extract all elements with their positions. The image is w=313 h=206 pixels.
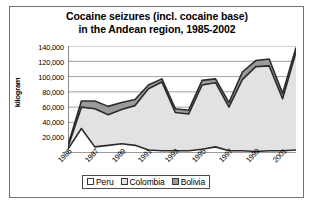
legend-item-colombia[interactable]: Colombia [121, 177, 165, 187]
legend-label-peru: Peru [96, 177, 114, 187]
legend-label-bolivia: Bolivia [181, 177, 205, 187]
x-tick-label: 1987 [83, 147, 101, 165]
legend-item-bolivia[interactable]: Bolivia [172, 177, 205, 187]
chart-figure: Cocaine seizures (incl. cocaine base) in… [0, 0, 313, 206]
legend-item-peru[interactable]: Peru [87, 177, 114, 187]
x-tick-label: 1985 [56, 147, 74, 165]
legend-label-colombia: Colombia [130, 177, 165, 187]
x-tick-label: 1995 [190, 147, 208, 165]
x-tick-label: 1993 [163, 147, 181, 165]
x-tick-label: 1991 [136, 147, 154, 165]
bolivia-swatch-icon [172, 178, 179, 185]
x-tick-label: 1989 [110, 147, 128, 165]
colombia-swatch-icon [121, 178, 128, 185]
chart-legend: Peru Colombia Bolivia [82, 175, 210, 189]
peru-swatch-icon [87, 178, 94, 185]
x-tick-label: 1999 [244, 147, 262, 165]
x-tick-label: 1997 [217, 147, 235, 165]
x-tick-label: 2001 [271, 147, 289, 165]
